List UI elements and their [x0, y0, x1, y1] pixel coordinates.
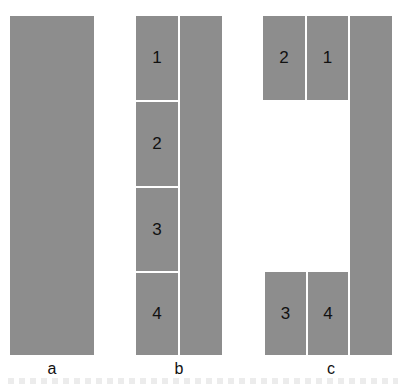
bleed-through-text: [8, 378, 398, 384]
panel-a-label: a: [32, 360, 72, 378]
panel-b-cell-3: 3: [136, 188, 178, 271]
panel-c-top-left: 2: [263, 16, 305, 100]
panel-c-label: c: [311, 360, 351, 378]
panel-c-top-right: 1: [307, 16, 348, 100]
panel-c-bottom-right: 4: [308, 272, 348, 355]
panel-a-block: [10, 16, 94, 355]
panel-b-column: [180, 16, 222, 355]
panel-b-cell-1: 1: [136, 16, 178, 100]
panel-b-label: b: [159, 360, 199, 378]
panel-b-cell-2: 2: [136, 102, 178, 186]
panel-c-column: [350, 16, 392, 355]
panel-c-bottom-left: 3: [265, 272, 306, 355]
panel-b-cell-4: 4: [136, 273, 178, 355]
